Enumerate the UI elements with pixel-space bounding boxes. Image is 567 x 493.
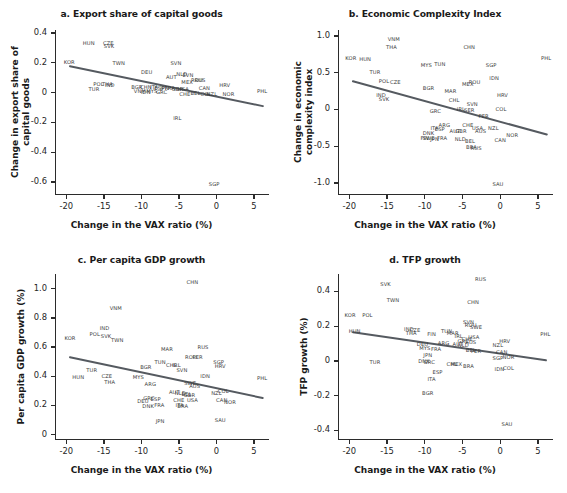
data-point-label: SVN xyxy=(467,101,478,107)
data-point-label: CHN xyxy=(463,44,475,50)
x-ticklabel-b-1: -15 xyxy=(367,201,407,211)
y-tick-c-0 xyxy=(51,434,56,435)
y-ticklabel-c-1: 0.2 xyxy=(7,399,47,409)
plot-area-a: -0.6-0.4-0.200.20.4-20-15-10-505HUNCZESV… xyxy=(55,30,269,194)
y-tick-b-0 xyxy=(334,182,339,183)
x-tick-a-1 xyxy=(103,194,104,199)
data-point-label: PHL xyxy=(257,88,267,94)
data-point-label: MYS xyxy=(419,345,430,351)
data-point-label: MEX xyxy=(462,81,474,87)
data-point-label: MEX xyxy=(451,361,463,367)
data-point-label: USA xyxy=(187,397,198,403)
x-ticklabel-a-3: -5 xyxy=(159,201,199,211)
x-tick-a-2 xyxy=(141,194,142,199)
x-tick-d-3 xyxy=(462,439,463,444)
x-ticklabel-d-2: -10 xyxy=(405,446,445,456)
plot-area-b: -1.0-0.500.51.0-20-15-10-505VNMTHACHNKOR… xyxy=(338,30,553,194)
x-tick-c-3 xyxy=(178,439,179,444)
data-point-label: BGR xyxy=(423,85,434,91)
plot-area-d: -0.4-0.200.20.4-20-15-10-505RUSSVKTWNCHN… xyxy=(338,274,553,439)
x-tick-a-5 xyxy=(253,194,254,199)
x-tick-a-4 xyxy=(216,194,217,199)
x-ticklabel-d-0: -20 xyxy=(329,446,369,456)
y-tick-d-1 xyxy=(334,395,339,396)
y-tick-d-2 xyxy=(334,360,339,361)
data-point-label: NZL xyxy=(493,342,504,348)
data-point-label: HRV xyxy=(215,363,226,369)
data-point-label: PHL xyxy=(540,331,550,337)
panel-title-c: c. Per capita GDP growth xyxy=(0,254,283,265)
panel-title-b: b. Economic Complexity Index xyxy=(283,8,567,19)
data-point-label: IDN xyxy=(489,75,499,81)
data-point-label: IND xyxy=(100,325,110,331)
data-point-label: MAR xyxy=(444,88,456,94)
data-point-label: SWE xyxy=(470,324,482,330)
y-tick-a-3 xyxy=(51,92,56,93)
data-point-label: SVK xyxy=(101,333,112,339)
data-point-label: HRV xyxy=(497,92,508,98)
x-ticklabel-a-1: -15 xyxy=(84,201,124,211)
data-point-label: BRA xyxy=(463,363,474,369)
y-tick-a-2 xyxy=(51,122,56,123)
data-point-label: FRA xyxy=(154,402,164,408)
data-point-label: THA xyxy=(406,330,417,336)
y-axis-d xyxy=(338,274,339,439)
data-point-label: SAU xyxy=(215,417,226,423)
y-tick-a-1 xyxy=(51,152,56,153)
data-point-label: BGR xyxy=(140,364,151,370)
x-tick-b-2 xyxy=(424,194,425,199)
x-ticklabel-b-0: -20 xyxy=(329,201,369,211)
y-tick-b-4 xyxy=(334,35,339,36)
data-point-label: IRL xyxy=(173,115,181,121)
data-point-label: RUS xyxy=(471,145,482,151)
data-point-label: DEU xyxy=(141,69,152,75)
data-point-label: CHN xyxy=(467,299,479,305)
data-point-label: IND xyxy=(105,82,115,88)
data-point-label: ARG xyxy=(145,381,156,387)
x-tick-d-4 xyxy=(500,439,501,444)
x-tick-d-2 xyxy=(424,439,425,444)
data-point-label: HUN xyxy=(359,56,371,62)
data-point-label: THA xyxy=(386,44,397,50)
data-point-label: SGP xyxy=(486,62,497,68)
y-tick-c-1 xyxy=(51,405,56,406)
x-tick-b-4 xyxy=(500,194,501,199)
x-ticklabel-d-3: -5 xyxy=(442,446,482,456)
x-tick-b-3 xyxy=(462,194,463,199)
y-tick-d-4 xyxy=(334,291,339,292)
y-tick-a-0 xyxy=(51,181,56,182)
y-tick-c-4 xyxy=(51,317,56,318)
data-point-label: SVK xyxy=(104,43,115,49)
data-point-label: RUS xyxy=(194,77,205,83)
panel-title-a: a. Export share of capital goods xyxy=(0,8,283,19)
data-point-label: TUR xyxy=(370,69,381,75)
figure-root: a. Export share of capital goods-0.6-0.4… xyxy=(0,0,567,493)
data-point-label: BRA xyxy=(177,403,188,409)
y-tick-a-4 xyxy=(51,62,56,63)
data-point-label: PHL xyxy=(257,375,267,381)
x-tick-d-1 xyxy=(386,439,387,444)
data-point-label: NOR xyxy=(223,91,235,97)
data-point-label: GRC xyxy=(430,108,441,114)
x-axis-label-b: Change in the VAX ratio (%) xyxy=(283,220,567,230)
data-point-label: FRA xyxy=(431,346,441,352)
data-point-label: AUS xyxy=(189,383,200,389)
y-ticklabel-c-5: 1.0 xyxy=(7,283,47,293)
data-point-label: MYS xyxy=(133,374,144,380)
y-tick-b-3 xyxy=(334,72,339,73)
data-point-label: ITA xyxy=(427,376,435,382)
data-point-label: KOR xyxy=(345,312,356,318)
data-point-label: HUN xyxy=(83,40,95,46)
data-point-label: PER xyxy=(471,348,481,354)
data-point-label: COL xyxy=(503,365,514,371)
x-ticklabel-c-2: -10 xyxy=(121,446,161,456)
x-ticklabel-b-4: 0 xyxy=(480,201,520,211)
data-point-label: BGR xyxy=(422,390,433,396)
data-point-label: NOR xyxy=(224,399,236,405)
data-point-label: FIN xyxy=(427,331,436,337)
x-tick-c-2 xyxy=(141,439,142,444)
data-point-label: DNK xyxy=(142,403,154,409)
data-point-label: RUS xyxy=(475,276,486,282)
y-tick-d-3 xyxy=(334,326,339,327)
y-ticklabel-d-3: 0.2 xyxy=(290,320,330,330)
